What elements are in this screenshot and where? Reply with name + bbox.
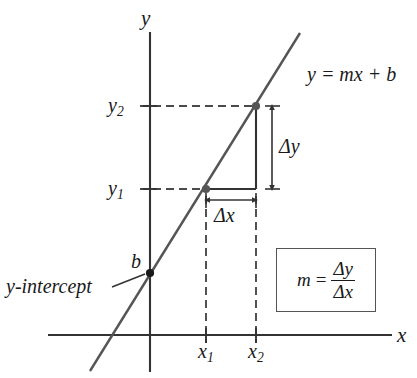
formula-equals: = bbox=[316, 269, 327, 291]
x2-tick-label: x2 bbox=[248, 341, 264, 365]
y1-subscript: 1 bbox=[117, 187, 124, 202]
y2-base: y bbox=[108, 94, 117, 116]
b-intercept-label: b bbox=[131, 251, 141, 271]
figure-canvas bbox=[0, 0, 417, 378]
delta-y-label: Δy bbox=[279, 136, 300, 156]
formula-numerator: Δy bbox=[331, 259, 355, 280]
x1-base: x bbox=[198, 340, 207, 362]
delta-x-label: Δx bbox=[214, 205, 235, 225]
y-axis-label: y bbox=[141, 8, 150, 29]
x-axis-label: x bbox=[397, 325, 406, 346]
formula-denominator: Δx bbox=[331, 280, 355, 302]
x2-base: x bbox=[248, 340, 257, 362]
x1-subscript: 1 bbox=[207, 350, 214, 365]
point-marker-2 bbox=[252, 102, 260, 110]
line-equation-label: y = mx + b bbox=[307, 64, 396, 84]
slope-formula: m = Δy Δx bbox=[297, 259, 355, 302]
x2-subscript: 2 bbox=[257, 350, 264, 365]
point-marker-y-intercept bbox=[146, 269, 154, 277]
point-marker-1 bbox=[202, 185, 210, 193]
y-intercept-leader bbox=[112, 274, 145, 287]
formula-lhs: m bbox=[297, 269, 311, 291]
y-intercept-annotation: y-intercept bbox=[6, 276, 92, 296]
x1-tick-label: x1 bbox=[198, 341, 214, 365]
slope-formula-box: m = Δy Δx bbox=[276, 248, 376, 312]
formula-fraction: Δy Δx bbox=[331, 259, 355, 302]
y2-subscript: 2 bbox=[117, 104, 124, 119]
y2-tick-label: y2 bbox=[108, 95, 124, 119]
y1-base: y bbox=[108, 177, 117, 199]
slope-intercept-figure: y x y = mx + b y2 y1 Δy Δx b y-intercept… bbox=[0, 0, 417, 378]
y1-tick-label: y1 bbox=[108, 178, 124, 202]
